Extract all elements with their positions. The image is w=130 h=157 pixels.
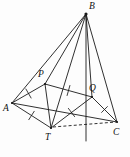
tick-on-AT — [29, 111, 34, 119]
tick-on-AP — [26, 89, 31, 98]
vertex-dot-B — [84, 12, 87, 15]
vertex-label-Q: Q — [89, 84, 96, 94]
geometry-canvas — [0, 0, 130, 157]
vertex-label-P: P — [38, 70, 44, 80]
vertex-label-C: C — [113, 128, 119, 138]
vertex-label-T: T — [45, 133, 50, 143]
vertex-dot-A — [11, 102, 13, 104]
vertex-label-A: A — [3, 104, 9, 114]
edge-A-B — [12, 14, 86, 103]
edge-B-P — [45, 14, 86, 84]
edge-T-C-hidden — [53, 122, 116, 127]
vertex-dot-P — [44, 83, 46, 85]
vertex-dot-Q — [91, 96, 93, 98]
vertex-dot-T — [50, 127, 52, 129]
geometry-figure: B P Q A T C — [0, 0, 130, 157]
vertex-label-B: B — [89, 2, 95, 12]
edge-P-T — [45, 84, 51, 128]
edge-B-C — [86, 14, 117, 122]
tick-on-TQ — [68, 108, 74, 116]
vertex-dot-C — [116, 121, 118, 123]
